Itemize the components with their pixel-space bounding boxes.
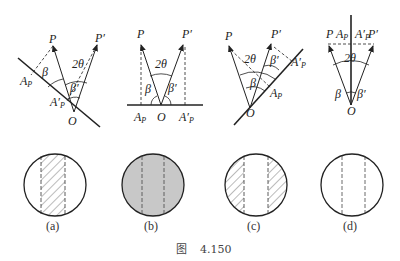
label-p: P xyxy=(325,27,334,41)
panel-d-label: (d) xyxy=(343,219,357,233)
hatched-band-left xyxy=(224,150,244,220)
label-2theta: 2θ xyxy=(72,57,84,71)
label-a-p: AP xyxy=(133,110,146,125)
caption-prefix: 图 xyxy=(176,243,187,256)
panel-a-label: (a) xyxy=(46,219,59,233)
label-a-p-prime: A′P xyxy=(178,110,194,125)
angle-arc-beta-prime xyxy=(165,96,171,105)
label-beta: β xyxy=(144,82,151,96)
panel-c-vector-diagram: P P′ 2θ β′ β AP A′P O xyxy=(224,27,306,125)
vector-p-arrow xyxy=(141,45,161,105)
label-o: O xyxy=(68,114,77,128)
label-2theta: 2θ xyxy=(344,51,356,65)
vector-p-prime-arrow xyxy=(74,45,97,112)
angle-arc-2theta xyxy=(150,74,172,76)
label-beta-prime: β′ xyxy=(69,81,79,95)
figure-caption: 图 4.150 xyxy=(176,243,232,256)
mirror-surface-line xyxy=(18,58,100,127)
label-p-prime: P′ xyxy=(367,27,378,41)
panel-a-disc: (a) xyxy=(24,150,86,233)
label-p-prime: P′ xyxy=(181,27,192,41)
label-o: O xyxy=(157,110,166,124)
panel-c-disc: (c) xyxy=(224,150,290,233)
panel-b-vector-diagram: P P′ 2θ β β′ AP O A′P xyxy=(127,27,203,125)
hatched-band xyxy=(41,150,65,220)
label-2theta: 2θ xyxy=(155,57,167,71)
label-a-p: AP xyxy=(269,86,282,101)
panel-d-disc: (d) xyxy=(321,154,383,233)
panel-d-vector-diagram: P AP A′P P′ 2θ β β′ O xyxy=(325,15,378,118)
vector-p-prime-arrow xyxy=(161,45,183,105)
label-p: P xyxy=(136,27,145,41)
label-a-p: AP xyxy=(19,74,32,89)
label-o: O xyxy=(246,106,255,120)
angle-arc-beta xyxy=(151,96,157,105)
panel-b-label: (b) xyxy=(144,219,158,233)
label-beta-prime: β′ xyxy=(356,87,366,101)
label-o: O xyxy=(347,104,356,118)
label-beta-prime: β′ xyxy=(269,53,279,67)
panel-b-disc: (b) xyxy=(122,154,184,233)
label-a-p-prime: A′P xyxy=(290,55,306,70)
disc-outline xyxy=(321,154,383,216)
label-beta: β xyxy=(41,65,48,79)
label-p: P xyxy=(224,29,233,43)
label-beta: β xyxy=(249,76,256,90)
label-2theta: 2θ xyxy=(244,52,256,66)
panel-c-label: (c) xyxy=(247,219,260,233)
label-beta-prime: β′ xyxy=(167,81,177,95)
panel-a-vector-diagram: P P′ β 2θ β′ AP A′P O xyxy=(18,31,105,128)
label-p-prime: P′ xyxy=(270,27,281,41)
figure-canvas: P P′ β 2θ β′ AP A′P O P P′ 2θ β β′ AP O … xyxy=(0,0,400,261)
label-a-p-prime: A′P xyxy=(49,95,65,110)
label-p: P xyxy=(48,32,57,46)
label-p-prime: P′ xyxy=(94,31,105,45)
caption-number: 4.150 xyxy=(200,243,232,256)
label-a-p: AP xyxy=(335,27,348,42)
disc-filled xyxy=(122,154,184,216)
label-beta: β xyxy=(334,87,341,101)
